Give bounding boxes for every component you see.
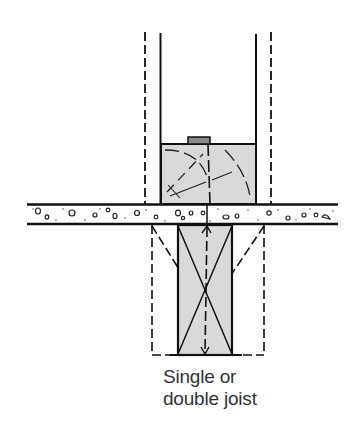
floor-slab bbox=[27, 205, 338, 225]
joist-label-line-2: double joist bbox=[163, 389, 257, 409]
top-plate-block bbox=[161, 137, 256, 204]
block-cap bbox=[188, 137, 210, 144]
joist bbox=[178, 225, 232, 355]
joist-section-diagram bbox=[0, 0, 362, 425]
joist-label-line-1: Single or bbox=[163, 367, 236, 387]
